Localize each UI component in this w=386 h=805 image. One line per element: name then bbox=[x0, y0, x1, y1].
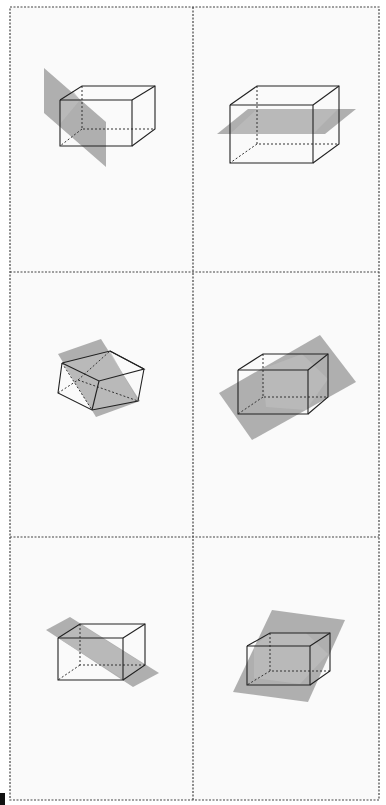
figure-grid bbox=[0, 0, 386, 805]
corner-mark bbox=[0, 793, 5, 805]
